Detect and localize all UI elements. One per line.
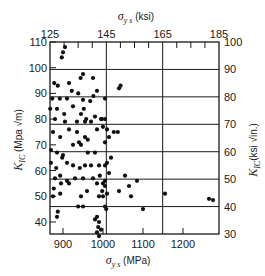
data-point xyxy=(95,127,99,131)
x-tick-label: 900 xyxy=(54,238,72,250)
data-point xyxy=(101,125,105,129)
y-tick-label: 90 xyxy=(35,87,47,99)
y-tick-label: 80 xyxy=(35,113,47,125)
data-point xyxy=(56,84,60,88)
data-point xyxy=(67,127,71,131)
data-points xyxy=(48,45,215,238)
data-point xyxy=(103,97,107,101)
y-axis-title: KIC (Mpa √m) xyxy=(11,109,27,172)
y-tick-label: 70 xyxy=(35,139,47,151)
data-point xyxy=(89,120,93,124)
data-point xyxy=(52,186,56,190)
x2-tick-label: 125 xyxy=(41,28,59,40)
data-point xyxy=(78,166,82,170)
data-point xyxy=(71,163,75,167)
data-point xyxy=(105,127,109,131)
y-tick-label: 40 xyxy=(35,216,47,228)
data-point xyxy=(60,55,64,59)
data-point xyxy=(97,220,101,224)
data-point xyxy=(71,143,75,147)
data-point xyxy=(76,91,80,95)
x2-tick-label: 145 xyxy=(97,28,115,40)
y-tick-label: 50 xyxy=(35,190,47,202)
x2-tick-label: 185 xyxy=(210,28,228,40)
data-point xyxy=(97,163,101,167)
data-point xyxy=(79,112,83,116)
data-point xyxy=(58,135,62,139)
data-point xyxy=(103,179,107,183)
data-point xyxy=(105,161,109,165)
data-point xyxy=(93,151,97,155)
data-point xyxy=(76,204,80,208)
data-point xyxy=(101,194,105,198)
data-point xyxy=(91,94,95,98)
data-point xyxy=(73,176,77,180)
data-point xyxy=(58,192,62,196)
data-point xyxy=(107,171,111,175)
x-tick-label: 1100 xyxy=(131,238,155,250)
data-point xyxy=(86,151,90,155)
data-point xyxy=(58,174,62,178)
y2-tick-label: 90 xyxy=(224,63,236,75)
y2-tick-label: 70 xyxy=(224,118,236,130)
x-axis-title: σy s (MPa) xyxy=(106,253,151,269)
data-point xyxy=(71,104,75,108)
data-point xyxy=(63,120,67,124)
data-point xyxy=(52,81,56,85)
data-point xyxy=(95,181,99,185)
data-point xyxy=(89,163,93,167)
data-point xyxy=(81,72,85,76)
data-point xyxy=(85,189,89,193)
data-point xyxy=(129,194,133,198)
data-point xyxy=(86,138,90,142)
data-point xyxy=(62,112,66,116)
data-point xyxy=(163,192,167,196)
grid-lines xyxy=(50,42,219,234)
y2-axis-title: KIC(ksi √in.) xyxy=(246,123,262,178)
data-point xyxy=(70,89,74,93)
data-point xyxy=(98,174,102,178)
data-point xyxy=(99,228,103,232)
data-point xyxy=(79,143,83,147)
data-point xyxy=(141,207,145,211)
tick-marks xyxy=(50,42,205,234)
data-point xyxy=(53,176,57,180)
data-point xyxy=(63,45,67,49)
data-point xyxy=(83,163,87,167)
data-point xyxy=(207,197,211,201)
data-point xyxy=(211,198,215,202)
data-point xyxy=(97,194,101,198)
y2-tick-label: 80 xyxy=(224,91,236,103)
x-tick-label: 1200 xyxy=(171,238,195,250)
data-point xyxy=(55,215,59,219)
data-point xyxy=(117,189,121,193)
data-point xyxy=(103,184,107,188)
y2-tick-label: 40 xyxy=(224,201,236,213)
data-point xyxy=(88,99,92,103)
data-point xyxy=(91,76,95,80)
data-point xyxy=(91,176,95,180)
x2-axis-title: σy s (ksi) xyxy=(118,9,154,25)
data-point xyxy=(55,107,59,111)
data-point xyxy=(51,130,55,134)
data-point xyxy=(51,194,55,198)
x-tick-label: 1000 xyxy=(91,238,115,250)
data-point xyxy=(65,161,69,165)
data-point xyxy=(103,140,107,144)
data-point xyxy=(55,151,59,155)
data-point xyxy=(95,89,99,93)
data-point xyxy=(95,215,99,219)
y-tick-label: 100 xyxy=(29,62,47,74)
data-point xyxy=(83,120,87,124)
data-point xyxy=(61,50,65,54)
y-tick-label: 60 xyxy=(35,165,47,177)
data-point xyxy=(109,156,113,160)
y2-tick-label: 60 xyxy=(224,146,236,158)
data-point xyxy=(93,115,97,119)
data-point xyxy=(59,181,63,185)
data-point xyxy=(75,130,79,134)
data-point xyxy=(81,98,85,102)
data-point xyxy=(79,76,83,80)
data-point xyxy=(119,84,123,88)
data-point xyxy=(50,97,54,101)
